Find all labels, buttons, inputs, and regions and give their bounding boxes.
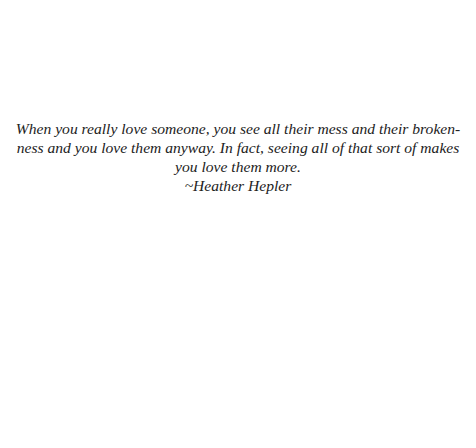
- quote-attribution: ~Heather Hepler: [0, 176, 476, 195]
- quote-block: When you really love someone, you see al…: [0, 119, 476, 195]
- quote-line-3: you love them more.: [0, 157, 476, 176]
- quote-line-1: When you really love someone, you see al…: [0, 119, 476, 138]
- quote-line-2: ness and you love them anyway. In fact, …: [0, 138, 476, 157]
